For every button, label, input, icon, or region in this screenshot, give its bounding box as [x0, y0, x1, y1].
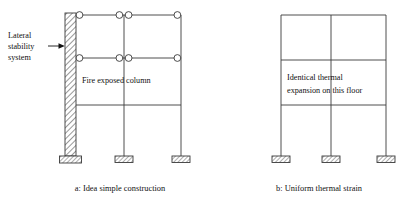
panel-a-simple-construction: Lateral stability system Fire exposed co… [8, 12, 190, 193]
lateral-stability-arrow-head [59, 43, 65, 48]
label-identical-thermal-expansion-line2: expansion on this floor [287, 86, 363, 95]
pin-joint-mid-left [76, 55, 83, 62]
panel-b-uniform-thermal-strain: Identical thermal expansion on this floo… [272, 15, 395, 193]
caption-panel-a: a: Idea simple construction [75, 184, 166, 193]
panel-b-footing-left [272, 156, 290, 163]
pin-joint-top-mid-left [116, 12, 123, 19]
panel-b-footing-middle [322, 156, 340, 163]
label-lateral-stability-line2: stability [8, 42, 35, 51]
label-lateral-stability-line1: Lateral [8, 31, 32, 40]
footing-middle-column [115, 156, 133, 163]
shear-wall-lateral-stability-system [65, 13, 76, 156]
shear-wall-base-pad [60, 156, 82, 163]
label-lateral-stability-line3: system [8, 53, 31, 62]
pin-joint-mid-mid-right [125, 55, 132, 62]
panel-b-footing-right [377, 156, 395, 163]
pin-joint-top-right [174, 12, 181, 19]
pin-joint-mid-mid-left [116, 55, 123, 62]
pin-joint-top-mid-right [125, 12, 132, 19]
diagram-canvas: Lateral stability system Fire exposed co… [0, 0, 402, 204]
footing-right-column [172, 156, 190, 163]
pin-joint-mid-right [174, 55, 181, 62]
pin-joint-top-left [76, 12, 83, 19]
caption-panel-b: b: Uniform thermal strain [276, 184, 363, 193]
label-fire-exposed-column: Fire exposed column [82, 76, 151, 85]
label-identical-thermal-expansion-line1: Identical thermal [287, 73, 343, 82]
figure-root: Lateral stability system Fire exposed co… [0, 0, 402, 204]
